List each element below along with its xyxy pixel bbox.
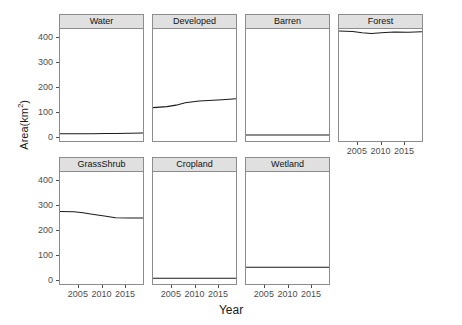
x-tick-label: 2010 xyxy=(91,290,111,299)
y-axis: 0100200300400 xyxy=(29,29,59,142)
x-tick-label: 2015 xyxy=(115,290,135,299)
plot-area-cropland xyxy=(152,172,237,285)
panel-cropland: Cropland xyxy=(152,157,237,285)
x-tick-mark xyxy=(404,142,405,145)
panel-strip-label-cropland: Cropland xyxy=(152,157,237,172)
panel-strip-label-forest: Forest xyxy=(338,14,423,29)
y-tick-label: 300 xyxy=(38,200,53,209)
panel-developed: Developed xyxy=(152,14,237,142)
x-axis: 200520102015 xyxy=(338,142,423,160)
y-axis-title-superscript: 2 xyxy=(16,104,25,108)
x-tick-label: 2005 xyxy=(254,290,274,299)
panel-strip-label-developed: Developed xyxy=(152,14,237,29)
panel-strip-label-grassshrub: GrassShrub xyxy=(59,157,144,172)
x-axis: 200520102015 xyxy=(152,285,237,303)
x-axis: 200520102015 xyxy=(245,285,330,303)
panel-barren: Barren xyxy=(245,14,330,142)
x-tick-mark xyxy=(357,142,358,145)
y-axis: 0100200300400 xyxy=(29,172,59,285)
x-tick-mark xyxy=(195,285,196,288)
x-tick-label: 2010 xyxy=(277,290,297,299)
x-tick-mark xyxy=(171,285,172,288)
panel-wetland: Wetland xyxy=(245,157,330,285)
x-axis-title: Year xyxy=(0,303,462,317)
x-tick-label: 2005 xyxy=(68,290,88,299)
series-line-grassshrub xyxy=(60,172,143,284)
faceted-line-chart: Area(km2) Year 0100200300400WaterDevelop… xyxy=(0,0,462,325)
x-axis: 200520102015 xyxy=(59,285,144,303)
x-tick-label: 2015 xyxy=(394,147,414,156)
plot-area-water xyxy=(59,29,144,142)
x-tick-mark xyxy=(288,285,289,288)
x-tick-mark xyxy=(264,285,265,288)
series-line-wetland xyxy=(246,172,329,284)
plot-area-barren xyxy=(245,29,330,142)
x-tick-label: 2010 xyxy=(184,290,204,299)
x-tick-label: 2015 xyxy=(301,290,321,299)
panel-strip-label-barren: Barren xyxy=(245,14,330,29)
y-tick-label: 100 xyxy=(38,250,53,259)
y-tick-label: 0 xyxy=(48,275,53,284)
panel-grassshrub: GrassShrub xyxy=(59,157,144,285)
x-tick-label: 2005 xyxy=(161,290,181,299)
y-tick-label: 200 xyxy=(38,82,53,91)
series-line-water xyxy=(60,29,143,141)
y-tick-label: 100 xyxy=(38,107,53,116)
series-line-forest xyxy=(339,29,422,141)
series-line-cropland xyxy=(153,172,236,284)
x-tick-mark xyxy=(125,285,126,288)
plot-area-grassshrub xyxy=(59,172,144,285)
plot-area-wetland xyxy=(245,172,330,285)
x-tick-label: 2005 xyxy=(347,147,367,156)
y-tick-label: 0 xyxy=(48,132,53,141)
y-tick-label: 400 xyxy=(38,32,53,41)
y-axis-title: Area(km2) xyxy=(16,50,30,200)
panel-strip-label-water: Water xyxy=(59,14,144,29)
series-line-barren xyxy=(246,29,329,141)
panel-strip-label-wetland: Wetland xyxy=(245,157,330,172)
panel-water: Water xyxy=(59,14,144,142)
x-tick-mark xyxy=(218,285,219,288)
x-tick-mark xyxy=(78,285,79,288)
y-tick-label: 200 xyxy=(38,225,53,234)
plot-area-developed xyxy=(152,29,237,142)
y-tick-label: 400 xyxy=(38,175,53,184)
plot-area-forest xyxy=(338,29,423,142)
x-tick-label: 2015 xyxy=(208,290,228,299)
x-tick-mark xyxy=(102,285,103,288)
y-tick-label: 300 xyxy=(38,57,53,66)
x-tick-mark xyxy=(311,285,312,288)
series-line-developed xyxy=(153,29,236,141)
x-tick-mark xyxy=(381,142,382,145)
x-tick-label: 2010 xyxy=(370,147,390,156)
panel-forest: Forest xyxy=(338,14,423,142)
